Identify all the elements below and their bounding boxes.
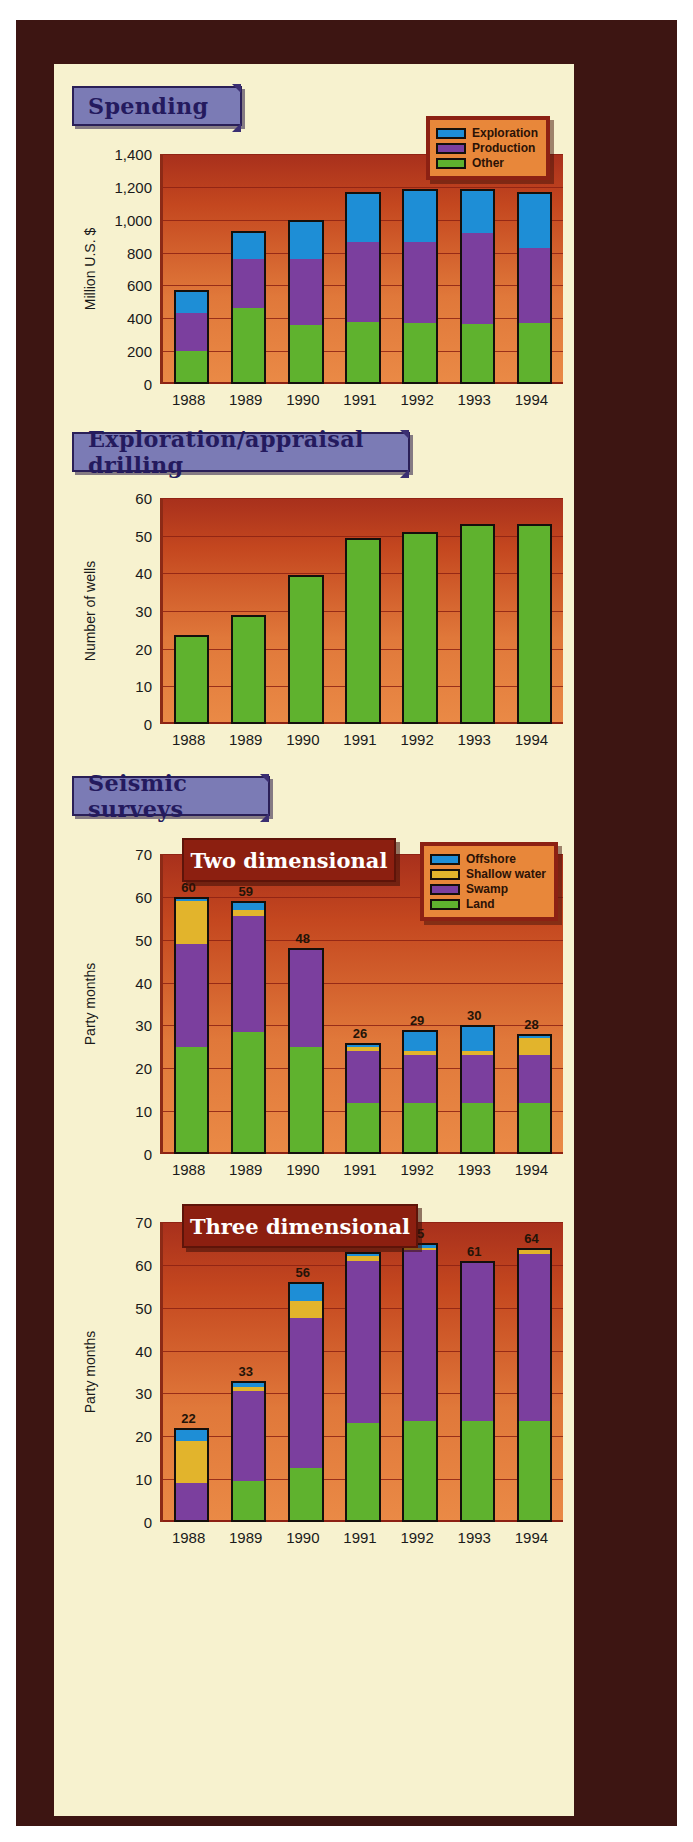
bar-segment-production [460, 233, 495, 324]
banner-notch-bottom-icon [260, 813, 269, 822]
x-axis-tick-label: 1994 [503, 1529, 560, 1546]
bar-segment-swamp [288, 948, 323, 1047]
bar-segment-swamp [288, 1318, 323, 1468]
banner-spending-label: Spending [88, 93, 208, 119]
bar-segment-offshore [460, 1025, 495, 1051]
bar-segment-land [288, 1047, 323, 1154]
bar [345, 192, 380, 384]
bar-segment-offshore [345, 1043, 380, 1047]
bar [402, 532, 437, 724]
banner-spending: Spending [72, 86, 242, 126]
bar-segment-swamp [174, 1483, 209, 1522]
y-axis-tick-label: 0 [82, 1514, 152, 1531]
bar-segment-land [174, 1047, 209, 1154]
gridline [163, 536, 563, 537]
x-axis-tick-label: 1990 [274, 1161, 331, 1178]
bar-segment-other [231, 308, 266, 384]
bar [174, 897, 209, 1154]
bar-segment-shallow-water [174, 901, 209, 944]
bar-segment-land [460, 1421, 495, 1522]
bar-segment-shallow-water [460, 1051, 495, 1055]
legend-label: Swamp [466, 882, 508, 896]
bar-value-label: 30 [445, 1008, 504, 1023]
bar-segment-number-of-wells [174, 635, 209, 724]
legend-item: Offshore [430, 852, 546, 866]
legend-label: Exploration [472, 126, 538, 140]
bar-value-label: 33 [216, 1364, 275, 1379]
bar-segment-swamp [345, 1261, 380, 1424]
x-axis-tick-label: 1993 [446, 1161, 503, 1178]
y-axis-tick-label: 1,000 [82, 211, 152, 228]
bar-value-label: 22 [159, 1411, 218, 1426]
bar [345, 1252, 380, 1522]
poster-border: Spending02004006008001,0001,2001,400Mill… [16, 20, 677, 1826]
poster-page: Spending02004006008001,0001,2001,400Mill… [54, 64, 574, 1816]
bar-value-label: 56 [273, 1265, 332, 1280]
y-axis-tick-label: 60 [82, 888, 152, 905]
bar-segment-land [460, 1103, 495, 1154]
bar-segment-land [517, 1103, 552, 1154]
y-axis-tick-label: 0 [82, 1146, 152, 1163]
legend-label: Land [466, 897, 495, 911]
x-axis-tick-label: 1991 [331, 1161, 388, 1178]
bar-segment-number-of-wells [231, 615, 266, 724]
bar-segment-swamp [517, 1055, 552, 1102]
bar-segment-exploration [174, 290, 209, 313]
x-axis-tick-label: 1993 [446, 1529, 503, 1546]
bar-segment-offshore [517, 1248, 552, 1250]
legend-label: Production [472, 141, 535, 155]
bar-segment-other [288, 325, 323, 384]
y-axis-tick-label: 60 [82, 490, 152, 507]
bar-segment-swamp [460, 1055, 495, 1102]
subtitle-two-dimensional-label: Two dimensional [191, 848, 388, 873]
banner-seismic-surveys-label: Seismic surveys [88, 770, 268, 822]
bar-segment-land [288, 1468, 323, 1522]
legend-label: Offshore [466, 852, 516, 866]
bar-segment-other [402, 323, 437, 384]
y-axis-tick-label: 20 [82, 1060, 152, 1077]
bar-segment-offshore [231, 901, 266, 910]
bar [402, 1030, 437, 1154]
bar-segment-land [402, 1421, 437, 1522]
x-axis-tick-label: 1993 [446, 731, 503, 748]
legend-swatch-other [436, 158, 466, 169]
bar-segment-swamp [231, 916, 266, 1032]
bar-segment-shallow-water [517, 1250, 552, 1254]
bar-segment-swamp [345, 1051, 380, 1102]
bar [345, 1043, 380, 1154]
legend-spending: ExplorationProductionOther [426, 116, 550, 180]
bar-segment-land [345, 1423, 380, 1522]
x-axis-tick-label: 1989 [217, 731, 274, 748]
bar-segment-offshore [288, 1282, 323, 1301]
bar-segment-other [345, 322, 380, 384]
bar-segment-shallow-water [517, 1038, 552, 1055]
bar-value-label: 26 [330, 1026, 389, 1041]
bar-segment-shallow-water [345, 1047, 380, 1051]
bar-value-label: 28 [502, 1017, 561, 1032]
bar-segment-exploration [288, 220, 323, 259]
y-axis-tick-label: 70 [82, 1214, 152, 1231]
bar [288, 948, 323, 1154]
bar-segment-land [231, 1481, 266, 1522]
banner-notch-bottom-icon [232, 123, 241, 132]
bar [231, 1381, 266, 1522]
legend-item: Exploration [436, 126, 538, 140]
bar-segment-swamp [231, 1391, 266, 1481]
legend-swatch-swamp [430, 884, 460, 895]
legend-item: Other [436, 156, 538, 170]
bar [517, 1248, 552, 1522]
bar-segment-exploration [345, 192, 380, 242]
bar [231, 901, 266, 1154]
bar [402, 189, 437, 385]
subtitle-three-dimensional: Three dimensional [182, 1204, 418, 1248]
y-axis-tick-label: 50 [82, 931, 152, 948]
x-axis-tick-label: 1988 [160, 731, 217, 748]
bar-segment-land [345, 1103, 380, 1154]
bar-segment-offshore [231, 1381, 266, 1387]
y-axis-title: Party months [82, 963, 98, 1045]
bar [231, 231, 266, 384]
bar [517, 192, 552, 384]
bar-segment-shallow-water [231, 1387, 266, 1391]
bar [174, 290, 209, 384]
bar-segment-number-of-wells [460, 524, 495, 724]
